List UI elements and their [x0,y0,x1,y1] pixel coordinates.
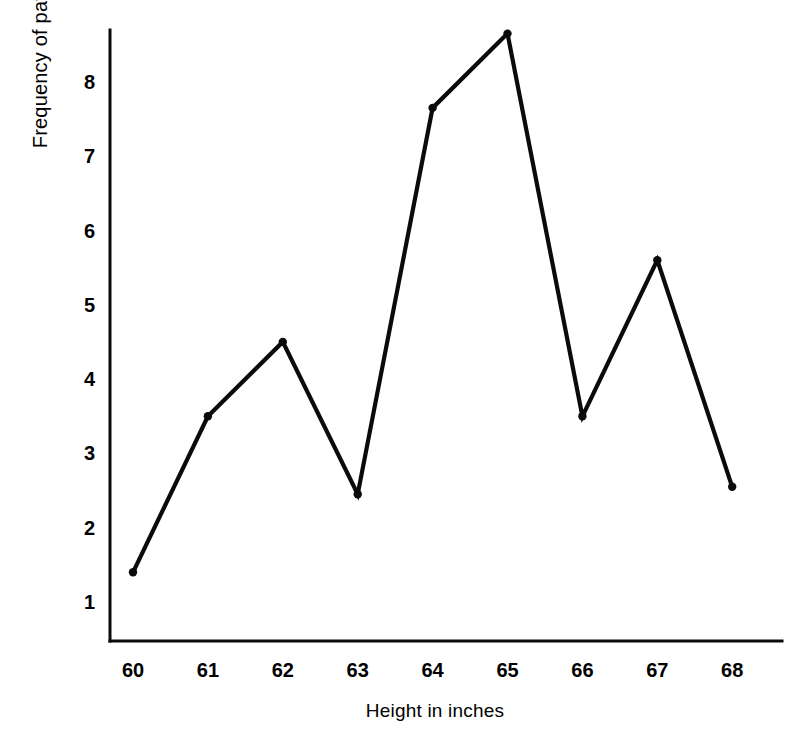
data-point [279,338,287,346]
y-tick-label: 7 [55,146,95,166]
data-point [204,412,212,420]
x-tick-label: 66 [557,660,607,680]
chart-figure: Frequency of patients Height in inches 1… [0,0,795,749]
y-tick-label: 5 [55,295,95,315]
y-axis-title: Frequency of patients [20,0,60,370]
y-tick-label: 2 [55,518,95,538]
x-tick-label: 62 [258,660,308,680]
y-tick-label: 6 [55,221,95,241]
x-tick-label: 61 [183,660,233,680]
data-point [728,483,736,491]
data-point-markers [129,29,737,576]
data-point [428,104,436,112]
y-tick-label: 8 [55,72,95,92]
data-point [653,256,661,264]
x-tick-label: 63 [333,660,383,680]
y-tick-label: 1 [55,592,95,612]
data-series-line [133,34,732,573]
x-tick-label: 64 [408,660,458,680]
data-point [578,412,586,420]
data-point [129,568,137,576]
line-chart-plot [0,0,795,749]
x-axis-title: Height in inches [110,700,760,722]
x-tick-label: 60 [108,660,158,680]
data-point [503,29,511,37]
y-tick-label: 4 [55,369,95,389]
x-tick-label: 68 [707,660,757,680]
y-tick-label: 3 [55,443,95,463]
x-tick-label: 65 [483,660,533,680]
x-tick-label: 67 [632,660,682,680]
data-point [354,490,362,498]
